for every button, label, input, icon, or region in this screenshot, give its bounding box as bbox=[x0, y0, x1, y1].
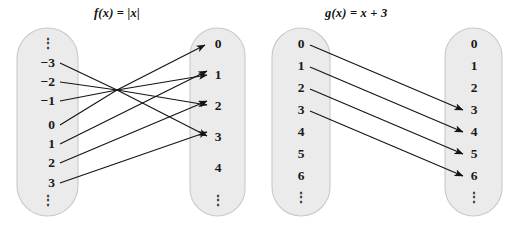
domain-g-item-2: 2 bbox=[298, 80, 305, 95]
codomain-f-item-1: 1 bbox=[215, 67, 222, 82]
arrow-g-1-to-4 bbox=[310, 67, 463, 132]
codomain-oval-f-group: 0 1 2 3 4 ⋮ bbox=[190, 28, 245, 216]
codomain-g-item-4: 4 bbox=[471, 124, 478, 139]
codomain-g-item-3: 3 bbox=[471, 102, 478, 117]
domain-g-bottom-ellipsis: ⋮ bbox=[294, 190, 308, 205]
mapping-diagrams-svg: ⋮ −3 −2 −1 0 1 2 3 ⋮ 0 1 2 3 4 ⋮ bbox=[0, 0, 513, 230]
domain-oval-f-group: ⋮ −3 −2 −1 0 1 2 3 ⋮ bbox=[17, 28, 78, 216]
codomain-f-item-3: 3 bbox=[215, 129, 222, 144]
domain-f-item-3: 0 bbox=[48, 117, 55, 132]
codomain-g-item-6: 6 bbox=[471, 168, 478, 183]
domain-f-item-2: −1 bbox=[41, 93, 56, 108]
arrow-g-2-to-5 bbox=[310, 89, 463, 154]
mapping-arrows-f bbox=[60, 45, 207, 183]
domain-f-item-1: −2 bbox=[41, 74, 56, 89]
codomain-f-item-2: 2 bbox=[215, 98, 222, 113]
arrow-f-neg1-to-1 bbox=[60, 75, 207, 101]
arrow-f-neg3-to-3 bbox=[60, 63, 207, 136]
codomain-oval-g-group: 0 1 2 3 4 5 6 ⋮ bbox=[445, 28, 502, 216]
codomain-g-item-0: 0 bbox=[471, 36, 478, 51]
codomain-oval-f bbox=[190, 28, 245, 216]
domain-f-item-5: 2 bbox=[48, 155, 55, 170]
domain-g-item-6: 6 bbox=[298, 168, 305, 183]
codomain-g-item-2: 2 bbox=[471, 80, 478, 95]
domain-g-item-5: 5 bbox=[298, 146, 305, 161]
domain-f-item-0: −3 bbox=[41, 55, 56, 70]
arrow-g-3-to-6 bbox=[310, 111, 463, 176]
arrow-f-3-to-3 bbox=[60, 132, 207, 183]
domain-oval-g bbox=[272, 28, 330, 216]
arrow-f-neg2-to-2 bbox=[60, 82, 207, 105]
codomain-f-item-0: 0 bbox=[215, 36, 222, 51]
mapping-arrows-g bbox=[310, 45, 463, 176]
codomain-g-item-1: 1 bbox=[471, 58, 478, 73]
arrow-g-0-to-3 bbox=[310, 45, 463, 110]
domain-g-item-1: 1 bbox=[298, 58, 305, 73]
codomain-oval-g bbox=[445, 28, 502, 216]
domain-f-item-6: 3 bbox=[48, 175, 55, 190]
arrow-f-2-to-2 bbox=[60, 101, 207, 163]
codomain-f-bottom-ellipsis: ⋮ bbox=[211, 193, 225, 208]
domain-g-item-4: 4 bbox=[298, 124, 305, 139]
codomain-g-item-5: 5 bbox=[471, 146, 478, 161]
codomain-f-item-4: 4 bbox=[215, 160, 222, 175]
domain-f-bottom-ellipsis: ⋮ bbox=[41, 193, 55, 208]
domain-g-item-0: 0 bbox=[298, 36, 305, 51]
domain-oval-g-group: 0 1 2 3 4 5 6 ⋮ bbox=[272, 28, 330, 216]
domain-f-item-4: 1 bbox=[48, 136, 55, 151]
domain-f-top-ellipsis: ⋮ bbox=[41, 36, 55, 51]
codomain-g-bottom-ellipsis: ⋮ bbox=[467, 190, 481, 205]
figure-canvas: f(x) = |x| g(x) = x + 3 ⋮ −3 −2 −1 0 1 2… bbox=[0, 0, 513, 230]
domain-g-item-3: 3 bbox=[298, 102, 305, 117]
